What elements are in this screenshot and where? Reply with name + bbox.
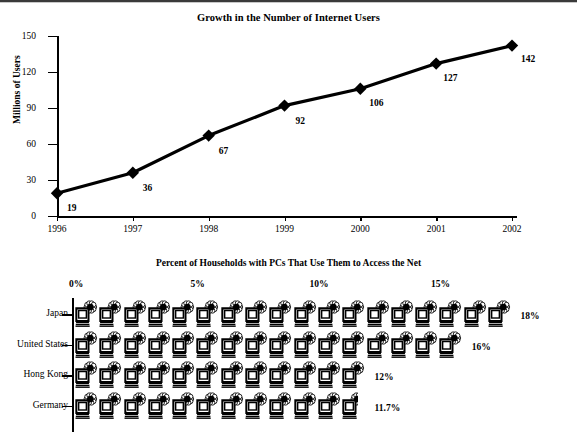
scale-label-0: 0% xyxy=(69,279,83,289)
computer-icon xyxy=(123,331,147,359)
computer-icon xyxy=(244,392,268,420)
y-tick-label-0: 0 xyxy=(31,211,36,221)
computer-icon xyxy=(123,392,147,420)
row-label-united-states: United States xyxy=(17,339,68,349)
computer-icon xyxy=(195,300,219,328)
computer-icon xyxy=(195,331,219,359)
computer-icon xyxy=(147,361,171,389)
row-value-united-states: 16% xyxy=(472,342,491,352)
row-tick xyxy=(62,345,74,347)
computer-icon xyxy=(463,300,487,328)
computer-icon-partial xyxy=(341,392,365,420)
computer-icon xyxy=(220,361,244,389)
computer-icon xyxy=(195,361,219,389)
computer-icon xyxy=(171,392,195,420)
data-point-label-1998: 67 xyxy=(219,146,229,156)
scale-label-10: 10% xyxy=(310,279,329,289)
data-marker-2001 xyxy=(430,57,442,69)
series-polyline xyxy=(57,46,512,194)
row-value-japan: 18% xyxy=(520,311,539,321)
row-icon-strip xyxy=(74,361,366,391)
row-tick xyxy=(62,406,74,408)
row-label-germany: Germany xyxy=(33,400,68,410)
y-tick-label-120: 120 xyxy=(22,67,36,77)
computer-icon xyxy=(147,392,171,420)
data-marker-2002 xyxy=(506,39,518,51)
computer-icon xyxy=(487,300,511,328)
y-tick-30: 30 xyxy=(48,180,57,181)
computer-icon xyxy=(317,361,341,389)
data-point-label-1996: 19 xyxy=(67,203,77,213)
row-label-hong-kong: Hong Kong xyxy=(23,369,68,379)
computer-icon xyxy=(171,331,195,359)
computer-icon xyxy=(74,392,98,420)
x-tick-label-1997: 1997 xyxy=(123,224,142,234)
computer-icon xyxy=(74,331,98,359)
computer-icon xyxy=(438,331,462,359)
computer-icon xyxy=(123,300,147,328)
x-tick-label-2000: 2000 xyxy=(351,224,370,234)
y-tick-label-90: 90 xyxy=(27,103,37,113)
row-icon-strip xyxy=(74,392,366,422)
y-tick-0: 0 xyxy=(48,216,57,217)
computer-icon xyxy=(244,300,268,328)
pictogram-row: Germany11.7% xyxy=(0,392,577,422)
computer-icon xyxy=(366,331,390,359)
data-marker-1997 xyxy=(127,167,139,179)
page-canvas: Growth in the Number of Internet Users 0… xyxy=(0,0,577,432)
data-point-label-2001: 127 xyxy=(443,73,457,83)
computer-icon xyxy=(268,392,292,420)
pictogram-chart-title: Percent of Households with PCs That Use … xyxy=(0,258,577,268)
scale-label-15: 15% xyxy=(431,279,450,289)
internet-users-line-chart: Growth in the Number of Internet Users 0… xyxy=(0,6,577,251)
computer-icon xyxy=(390,331,414,359)
y-tick-150: 150 xyxy=(48,36,57,37)
row-value-germany: 11.7% xyxy=(375,403,401,413)
top-divider-rule-light xyxy=(0,2,577,3)
computer-icon xyxy=(414,331,438,359)
data-marker-1996 xyxy=(51,187,63,199)
computer-icon xyxy=(244,361,268,389)
computer-icon xyxy=(293,361,317,389)
pictogram-row: United States16% xyxy=(0,331,577,361)
computer-icon xyxy=(317,331,341,359)
computer-icon xyxy=(268,300,292,328)
computer-icon xyxy=(268,331,292,359)
line-series-svg xyxy=(57,36,517,218)
computer-icon xyxy=(317,300,341,328)
computer-icon xyxy=(195,392,219,420)
data-point-label-2002: 142 xyxy=(521,54,535,64)
pictogram-row: Japan18% xyxy=(0,300,577,330)
computer-icon xyxy=(98,331,122,359)
row-icon-strip xyxy=(74,331,463,361)
y-tick-label-30: 30 xyxy=(27,175,37,185)
computer-icon xyxy=(171,300,195,328)
data-marker-1999 xyxy=(278,99,290,111)
data-marker-1998 xyxy=(202,129,214,141)
data-point-label-2000: 106 xyxy=(369,98,383,108)
computer-icon xyxy=(244,331,268,359)
y-tick-90: 90 xyxy=(48,108,57,109)
computer-icon xyxy=(390,300,414,328)
computer-icon xyxy=(74,361,98,389)
y-tick-label-60: 60 xyxy=(27,139,37,149)
row-value-hong-kong: 12% xyxy=(375,372,394,382)
x-tick-label-2002: 2002 xyxy=(503,224,522,234)
computer-icon xyxy=(317,392,341,420)
computer-icon xyxy=(74,300,98,328)
computer-icon xyxy=(220,392,244,420)
line-chart-title: Growth in the Number of Internet Users xyxy=(0,12,577,23)
row-label-japan: Japan xyxy=(46,308,68,318)
y-tick-label-150: 150 xyxy=(22,31,36,41)
y-axis-title: Millions of Users xyxy=(12,55,22,124)
computer-icon xyxy=(171,361,195,389)
computer-icon xyxy=(268,361,292,389)
x-tick-label-1998: 1998 xyxy=(199,224,218,234)
computer-icon xyxy=(341,361,365,389)
computer-icon xyxy=(341,331,365,359)
computer-icon xyxy=(98,361,122,389)
data-point-label-1999: 92 xyxy=(296,116,306,126)
computer-icon xyxy=(438,300,462,328)
y-tick-120: 120 xyxy=(48,72,57,73)
computer-icon xyxy=(220,331,244,359)
